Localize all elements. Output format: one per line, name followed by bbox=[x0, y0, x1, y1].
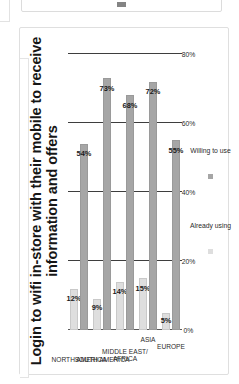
chart-stage: Login to wifi in-store with their mobile… bbox=[26, 36, 222, 366]
bar-group: SOUTH AMERICA9%73% bbox=[91, 54, 114, 330]
plot-area: NORTH AMERICA12%54%SOUTH AMERICA9%73%MID… bbox=[68, 54, 182, 330]
rotated-chart-wrapper: Login to wifi in-store with their mobile… bbox=[26, 36, 222, 366]
bar-willing-to-use: 72% bbox=[149, 82, 157, 330]
partial-top-panel bbox=[21, 0, 222, 12]
category-label: ASIA bbox=[140, 337, 155, 344]
bar-group: NORTH AMERICA12%54% bbox=[68, 54, 91, 330]
bar-value-label: 73% bbox=[100, 84, 115, 93]
x-tick-label: 80% bbox=[182, 51, 196, 58]
bar-already-using: 14% bbox=[116, 282, 124, 330]
bar-value-label: 9% bbox=[92, 303, 103, 312]
bar-willing-to-use: 73% bbox=[103, 78, 111, 330]
chart-title: Login to wifi in-store with their mobile… bbox=[28, 36, 60, 366]
x-axis-ticks: 0%20%40%60%80% bbox=[184, 54, 200, 330]
legend-label: Willing to use bbox=[190, 147, 230, 154]
bar-willing-to-use: 55% bbox=[172, 140, 180, 330]
partial-thumbnail-mark bbox=[117, 2, 126, 7]
bar-already-using: 12% bbox=[70, 289, 78, 330]
x-tick-label: 20% bbox=[182, 258, 196, 265]
bar-already-using: 5% bbox=[162, 313, 170, 330]
category-label: MIDDLE EAST/AFRICA bbox=[102, 349, 148, 363]
bar-group: MIDDLE EAST/AFRICA14%68% bbox=[114, 54, 137, 330]
bar-group: EUROPE5%55% bbox=[159, 54, 182, 330]
x-tick-label: 0% bbox=[184, 327, 194, 334]
legend-swatch-icon bbox=[208, 174, 213, 179]
x-tick-label: 60% bbox=[182, 120, 196, 127]
bar-willing-to-use: 54% bbox=[80, 144, 88, 330]
bar-value-label: 68% bbox=[123, 101, 138, 110]
category-label: EUROPE bbox=[157, 343, 185, 350]
bar-group: ASIA15%72% bbox=[136, 54, 159, 330]
legend-swatch-icon bbox=[208, 249, 213, 254]
x-tick-label: 40% bbox=[182, 189, 196, 196]
bar-value-label: 54% bbox=[77, 150, 92, 159]
bar-already-using: 9% bbox=[93, 299, 101, 330]
bar-already-using: 15% bbox=[139, 278, 147, 330]
legend-item[interactable]: Already using bbox=[202, 205, 218, 254]
chart-legend: Already usingWilling to use bbox=[202, 54, 218, 330]
bar-value-label: 72% bbox=[145, 88, 160, 97]
bar-willing-to-use: 68% bbox=[126, 95, 134, 330]
bar-value-label: 5% bbox=[160, 317, 171, 326]
bar-value-label: 55% bbox=[168, 146, 183, 155]
legend-label: Already using bbox=[189, 222, 230, 229]
adjacent-panel-edge bbox=[0, 0, 10, 22]
legend-item[interactable]: Willing to use bbox=[202, 130, 218, 178]
chart-panel: Login to wifi in-store with their mobile… bbox=[19, 27, 229, 375]
